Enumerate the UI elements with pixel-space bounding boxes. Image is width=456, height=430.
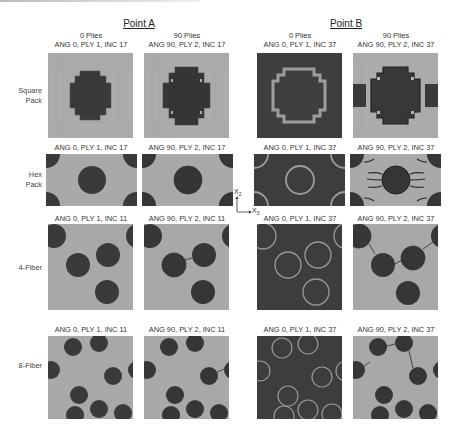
col-header-b2: 90 Plies ANG 90, PLY 2, INC 37 [346,31,446,49]
caption-hex-b2: ANG 90, PLY 2, INC 37 [346,143,446,152]
page-top-rule [0,0,200,2]
micrograph-8fiber-a2 [144,336,229,419]
panel-4fiber-b2 [353,224,438,310]
panel-4fiber-a1 [48,224,133,310]
axis-x3-label: X3 [252,207,259,216]
col-label: ANG 0, PLY 1, INC 17 [41,40,141,49]
caption-4fiber-b2: ANG 90, PLY 2, INC 37 [346,214,446,223]
col-header-a1: 0 Plies ANG 0, PLY 1, INC 17 [41,31,141,49]
row-label-hex-pack: Hex Pack [2,170,42,190]
col-plies: 90 Plies [346,31,446,40]
col-plies: 0 Plies [41,31,141,40]
caption-8fiber-a2: ANG 90, PLY 2, INC 11 [137,325,237,334]
micrograph-8fiber-b2 [353,336,438,419]
row-label-square-pack: Square Pack [2,86,42,106]
micrograph-square-a2 [144,53,229,138]
panel-square-b2 [353,53,438,138]
caption-hex-a2: ANG 90, PLY 2, INC 17 [137,143,237,152]
caption-4fiber-b1: ANG 0, PLY 1, INC 37 [250,214,350,223]
micrograph-8fiber-b1 [257,336,342,419]
caption-4fiber-a1: ANG 0, PLY 1, INC 11 [41,214,141,223]
col-header-b1: 0 Plies ANG 0, PLY 1, INC 37 [250,31,350,49]
caption-hex-b1: ANG 0, PLY 1, INC 37 [250,143,350,152]
panel-square-a1 [48,53,133,138]
micrograph-4fiber-b1 [257,224,342,310]
col-label: ANG 0, PLY 1, INC 37 [250,40,350,49]
col-label: ANG 90, PLY 2, INC 17 [137,40,237,49]
col-plies: 90 Plies [137,31,237,40]
col-plies: 0 Plies [250,31,350,40]
micrograph-hex-a2 [142,154,233,206]
micrograph-square-a1 [48,53,133,138]
panel-4fiber-a2 [144,224,229,310]
micrograph-hex-b1 [254,154,345,206]
axis-x2-label: X2 [234,188,241,197]
point-b-title: Point B [296,18,396,29]
micrograph-hex-a1 [46,154,137,206]
panel-hex-a1 [46,154,137,206]
panel-8fiber-b2 [353,336,438,419]
micrograph-hex-b2 [350,154,441,206]
panel-8fiber-b1 [257,336,342,419]
panel-8fiber-a2 [144,336,229,419]
micrograph-4fiber-a1 [48,224,133,310]
point-a-title: Point A [89,18,189,29]
col-label: ANG 90, PLY 2, INC 37 [346,40,446,49]
micrograph-4fiber-b2 [353,224,438,310]
micrograph-8fiber-a1 [48,336,133,419]
micrograph-square-b1 [257,53,342,138]
caption-8fiber-b1: ANG 0, PLY 1, INC 37 [250,325,350,334]
col-header-a2: 90 Plies ANG 90, PLY 2, INC 17 [137,31,237,49]
panel-square-b1 [257,53,342,138]
caption-hex-a1: ANG 0, PLY 1, INC 17 [41,143,141,152]
row-label-8-fiber: 8-Fiber [2,361,42,371]
micrograph-4fiber-a2 [144,224,229,310]
row-label-4-fiber: 4-Fiber [2,263,42,273]
panel-8fiber-a1 [48,336,133,419]
micrograph-square-b2 [353,53,438,138]
panel-hex-b1 [254,154,345,206]
panel-4fiber-b1 [257,224,342,310]
panel-hex-a2 [142,154,233,206]
caption-8fiber-a1: ANG 0, PLY 1, INC 11 [41,325,141,334]
panel-hex-b2 [350,154,441,206]
panel-square-a2 [144,53,229,138]
caption-8fiber-b2: ANG 90, PLY 2, INC 37 [346,325,446,334]
caption-4fiber-a2: ANG 90, PLY 2, INC 11 [137,214,237,223]
